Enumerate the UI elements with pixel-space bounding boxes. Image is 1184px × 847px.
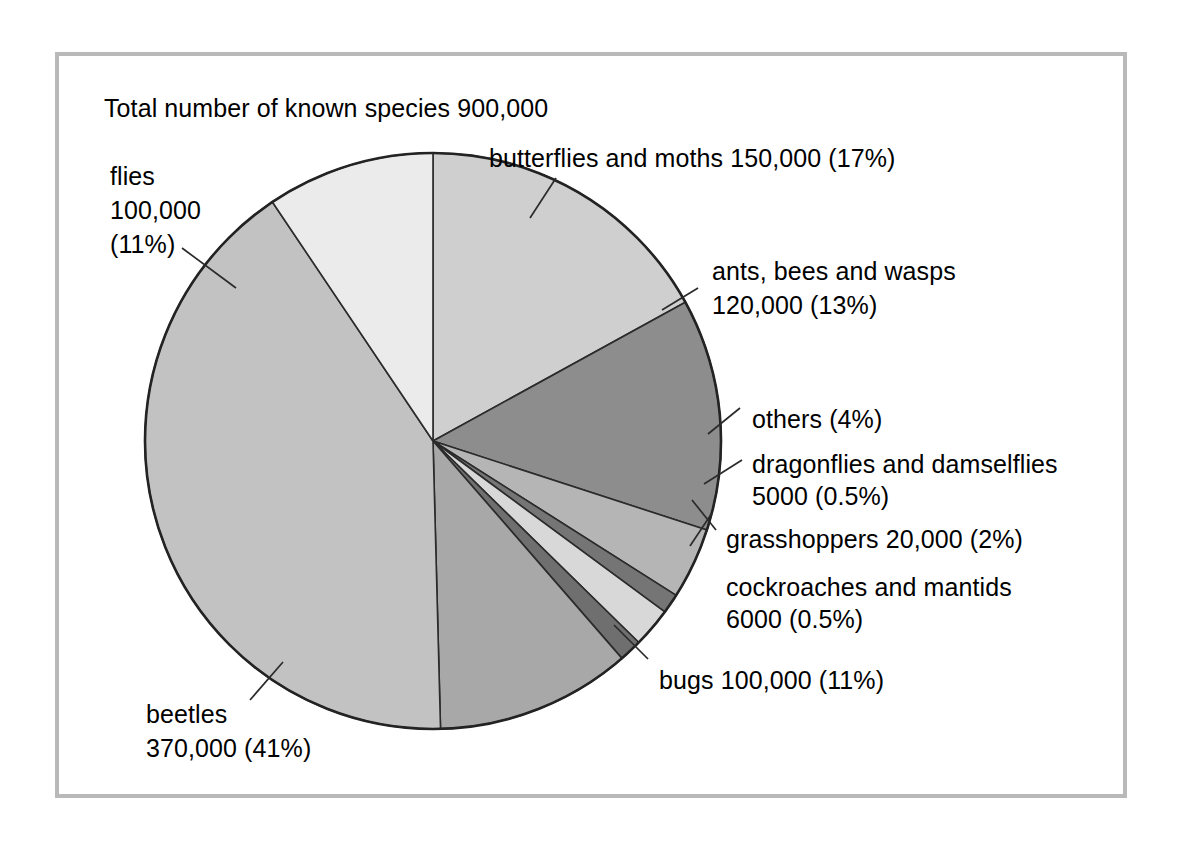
slice-label-beetles-line2: 370,000 (41%) — [146, 734, 311, 762]
slice-label-cockroaches-line2: 6000 (0.5%) — [726, 605, 863, 633]
slice-label-ants-line1: ants, bees and wasps — [712, 257, 956, 285]
slice-label-flies-line1: flies — [110, 162, 155, 190]
page-title: Total number of known species 900,000 — [104, 94, 548, 122]
slice-label-cockroaches-line1: cockroaches and mantids — [726, 573, 1012, 601]
slice-label-butterflies: butterflies and moths 150,000 (17%) — [489, 144, 896, 172]
pie-slice-group — [145, 153, 721, 729]
slice-label-ants-line2: 120,000 (13%) — [712, 291, 877, 319]
slice-label-others: others (4%) — [752, 405, 882, 433]
slice-label-beetles-line1: beetles — [146, 700, 227, 728]
slice-label-bugs: bugs 100,000 (11%) — [659, 666, 884, 694]
slice-label-dragonflies-line2: 5000 (0.5%) — [752, 482, 889, 510]
figure-root: Total number of known species 900,000 fl… — [0, 0, 1184, 847]
slice-label-flies-line3: (11%) — [110, 230, 175, 258]
slice-label-dragonflies-line1: dragonflies and damselflies — [752, 450, 1058, 478]
slice-label-flies-line2: 100,000 — [110, 196, 201, 224]
pie-chart: Total number of known species 900,000 fl… — [0, 0, 1184, 847]
slice-label-grasshoppers: grasshoppers 20,000 (2%) — [726, 525, 1023, 553]
